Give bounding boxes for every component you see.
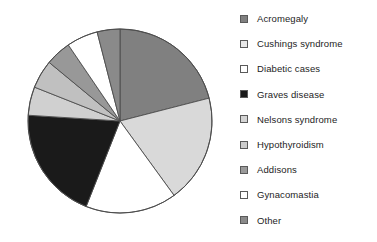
legend-item-label: Graves disease	[257, 82, 324, 107]
legend-item-label: Gynacomastia	[257, 182, 319, 207]
pie-chart-plot-area	[0, 0, 232, 242]
legend-item-label: Acromegaly	[257, 6, 308, 31]
pie-chart-figure: AcromegalyCushings syndromeDiabetic case…	[0, 0, 377, 242]
legend-swatch-icon	[240, 141, 248, 149]
legend-item[interactable]: Hypothyroidism	[240, 132, 377, 157]
chart-legend: AcromegalyCushings syndromeDiabetic case…	[240, 6, 377, 238]
pie-chart-svg	[0, 0, 232, 242]
legend-item[interactable]: Cushings syndrome	[240, 31, 377, 56]
legend-item[interactable]: Other	[240, 208, 377, 233]
legend-item-label: Nelsons syndrome	[257, 107, 337, 132]
legend-swatch-icon	[240, 90, 248, 98]
legend-swatch-icon	[240, 15, 248, 23]
legend-item-label: Addisons	[257, 157, 297, 182]
legend-item[interactable]: Addisons	[240, 157, 377, 182]
legend-item[interactable]: Graves disease	[240, 82, 377, 107]
legend-swatch-icon	[240, 166, 248, 174]
legend-swatch-icon	[240, 40, 248, 48]
legend-item-label: Other	[257, 208, 281, 233]
legend-swatch-icon	[240, 216, 248, 224]
legend-item[interactable]: Diabetic cases	[240, 56, 377, 81]
legend-item-label: Cushings syndrome	[257, 31, 343, 56]
legend-swatch-icon	[240, 115, 248, 123]
legend-item-label: Diabetic cases	[257, 56, 320, 81]
legend-item[interactable]: Gynacomastia	[240, 182, 377, 207]
pie-slice-group	[28, 29, 212, 213]
legend-swatch-icon	[240, 191, 248, 199]
legend-swatch-icon	[240, 65, 248, 73]
legend-item-label: Hypothyroidism	[257, 132, 324, 157]
legend-item[interactable]: Nelsons syndrome	[240, 107, 377, 132]
legend-item[interactable]: Acromegaly	[240, 6, 377, 31]
